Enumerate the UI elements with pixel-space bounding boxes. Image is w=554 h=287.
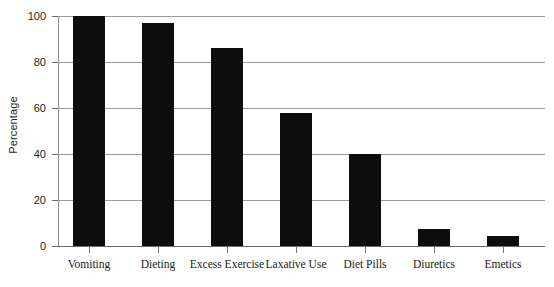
- y-tick-label-100: 100: [0, 10, 46, 22]
- gridline-60: [58, 108, 545, 109]
- plot-area: [58, 16, 545, 246]
- x-tick-0: [89, 247, 90, 253]
- bar-diet-pills: [349, 154, 381, 246]
- bar-laxative-use: [280, 113, 312, 246]
- gridline-80: [58, 62, 545, 63]
- y-tick-label-40: 40: [0, 148, 46, 160]
- bar-dieting: [142, 23, 174, 246]
- x-label-diuretics: Diuretics: [413, 258, 455, 270]
- x-label-emetics: Emetics: [484, 258, 521, 270]
- y-tick-label-80: 80: [0, 56, 46, 68]
- y-tick-label-20: 20: [0, 194, 46, 206]
- y-tick-label-0: 0: [0, 240, 46, 252]
- x-label-laxative-use: Laxative Use: [266, 258, 327, 270]
- gridline-100: [58, 16, 545, 17]
- x-label-dieting: Dieting: [141, 258, 176, 270]
- bar-chart: Percentage 020406080100 VomitingDietingE…: [0, 0, 554, 287]
- gridline-0: [58, 246, 545, 247]
- x-tick-6: [503, 247, 504, 253]
- x-label-vomiting: Vomiting: [68, 258, 111, 270]
- x-tick-5: [434, 247, 435, 253]
- x-tick-2: [227, 247, 228, 253]
- x-label-diet-pills: Diet Pills: [343, 258, 386, 270]
- x-tick-1: [158, 247, 159, 253]
- bar-excess-exercise: [211, 48, 243, 246]
- bar-vomiting: [73, 16, 105, 246]
- y-tick-label-60: 60: [0, 102, 46, 114]
- x-tick-3: [296, 247, 297, 253]
- bar-diuretics: [418, 229, 450, 246]
- x-tick-4: [365, 247, 366, 253]
- x-label-excess-exercise: Excess Exercise: [190, 258, 264, 270]
- bar-emetics: [487, 236, 519, 246]
- y-axis-title: Percentage: [2, 0, 24, 250]
